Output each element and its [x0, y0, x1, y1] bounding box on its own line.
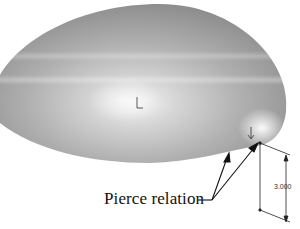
cad-diagram: Pierce relation 3.000: [0, 0, 300, 229]
dimension-value: 3.000: [274, 183, 292, 190]
pierce-relation-label: Pierce relation: [104, 189, 204, 209]
dimension-3000: [259, 142, 290, 222]
